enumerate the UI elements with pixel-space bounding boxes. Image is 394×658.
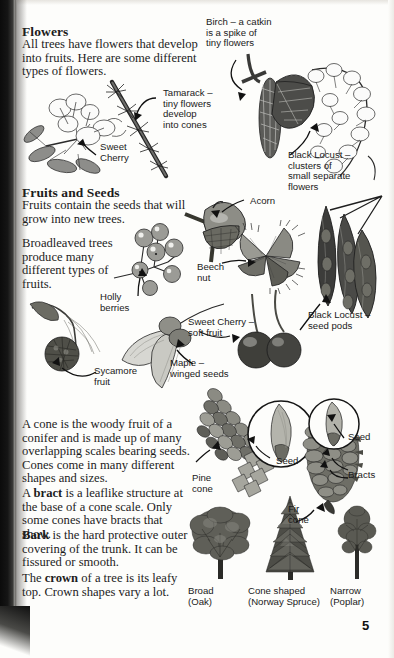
crown-name-narrow: Narrow <box>330 586 392 597</box>
book-gutter-falloff <box>15 0 27 658</box>
section-body-fruits-intro: Fruits contain the seeds that will grow … <box>22 199 202 226</box>
crown-label-cone-shaped: Cone shaped (Norway Spruce) <box>248 586 340 607</box>
callout-tamarack: Tamarack – tiny flowers develop into con… <box>163 88 225 130</box>
crown-species-broad: (Oak) <box>188 597 248 608</box>
section-body-bark: Bark is the hard protective outer coveri… <box>22 529 194 570</box>
callout-birch: Birch – a catkin is a spike of tiny flow… <box>206 17 296 49</box>
callout-pine-cone: Pine cone <box>192 473 228 494</box>
callout-maple: Maple – winged seeds <box>170 358 230 379</box>
callout-beech-nut: Beech nut <box>197 262 235 283</box>
crown-name-broad: Broad <box>188 586 248 597</box>
crown-label-narrow: Narrow (Poplar) <box>330 586 392 607</box>
crown-bold-term: crown <box>45 571 78 585</box>
book-gutter-corner <box>0 606 30 658</box>
crown-species-narrow: (Poplar) <box>330 597 392 608</box>
book-page: Flowers All trees have flowers that deve… <box>0 0 394 658</box>
page-number: 5 <box>362 618 369 633</box>
crown-label-broad: Broad (Oak) <box>188 586 248 607</box>
callout-black-locust-flowers: Black Locust – clusters of small separat… <box>288 150 368 192</box>
crown-name-cone-shaped: Cone shaped <box>248 586 340 597</box>
crown-species-cone-shaped: (Norway Spruce) <box>248 597 340 608</box>
callout-black-locust-pods: Black Locust – seed pods <box>308 310 386 331</box>
section-body-flowers: All trees have flowers that develop into… <box>22 38 202 79</box>
callout-bracts: Bracts <box>348 470 390 481</box>
callout-holly-berries: Holly berries <box>100 292 144 313</box>
callout-sycamore-fruit: Sycamore fruit <box>94 366 146 387</box>
callout-sweet-cherry-fruit: Sweet Cherry – soft fruit <box>188 317 266 338</box>
callout-fir-cone: Fir cone <box>288 504 320 525</box>
callout-seed-pine: Seed <box>276 456 310 467</box>
callout-acorn: Acorn <box>250 196 294 207</box>
bract-bold-term: bract <box>34 486 63 500</box>
callout-seed-fir: Seed <box>348 432 382 443</box>
section-body-broadleaved: Broadleaved trees produce many different… <box>22 237 122 291</box>
section-body-crown: The crown of a tree is its leafy top. Cr… <box>22 572 194 599</box>
section-body-cone: A cone is the woody fruit of a conifer a… <box>22 418 190 486</box>
callout-sweet-cherry: Sweet Cherry <box>100 142 148 163</box>
